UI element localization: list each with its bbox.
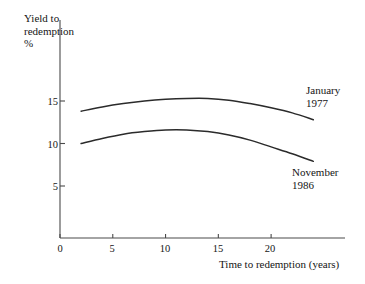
plot-area xyxy=(0,0,365,284)
series-curves xyxy=(81,98,313,161)
series-curve-january-1977 xyxy=(81,98,313,119)
chart-figure: Yield to redemption % Time to redemption… xyxy=(0,0,365,284)
series-curve-november-1986 xyxy=(81,130,313,162)
axis-lines xyxy=(60,20,345,238)
tick-marks xyxy=(60,101,271,238)
